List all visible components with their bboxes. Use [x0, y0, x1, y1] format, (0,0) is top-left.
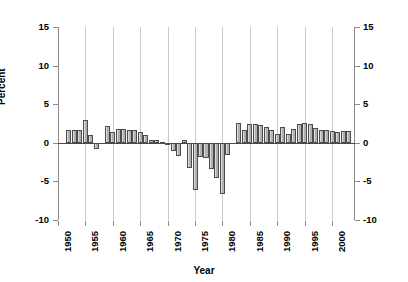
x-tick-1990 [277, 221, 278, 226]
y-tick-label-right-0: 0 [363, 138, 368, 148]
bar-1961 [116, 129, 121, 143]
x-tick-label-1970: 1970 [173, 231, 183, 252]
bar-1953 [72, 130, 77, 143]
y-tick-label-right--10: -10 [363, 215, 377, 225]
bar-1967 [149, 140, 154, 143]
x-tick-label-1955: 1955 [90, 231, 100, 252]
gridline-x-1975 [195, 27, 196, 220]
y-tick-label-right-10: 10 [363, 61, 374, 71]
bar-2002 [341, 131, 346, 143]
bar-2000 [330, 131, 335, 143]
bar-1985 [247, 124, 252, 143]
chart-figure: Percent Year 151510105500-5-5-10-1019501… [0, 0, 408, 282]
bar-1980 [220, 143, 225, 194]
x-tick-1970 [168, 221, 169, 226]
y-tick-left-10 [53, 66, 58, 67]
bar-1974 [187, 143, 192, 168]
gridline-x-1960 [113, 27, 114, 220]
bar-1981 [225, 143, 230, 155]
bar-1983 [236, 123, 241, 143]
x-tick-1980 [222, 221, 223, 226]
y-tick-left-15 [53, 27, 58, 28]
y-tick-label-left-10: 10 [0, 61, 49, 71]
bar-1991 [280, 127, 285, 143]
gridline-x-2000 [332, 27, 333, 220]
bar-1995 [302, 123, 307, 143]
bar-1955 [83, 120, 88, 142]
x-tick-1950 [58, 221, 59, 226]
bar-1973 [182, 140, 187, 142]
bar-1986 [253, 124, 258, 143]
y-tick-label-left-0: 0 [0, 138, 49, 148]
right-axis-line [354, 27, 355, 220]
x-tick-1985 [250, 221, 251, 226]
bar-1990 [275, 134, 280, 143]
x-tick-label-1980: 1980 [227, 231, 237, 252]
y-tick-label-left-5: 5 [0, 99, 49, 109]
x-tick-label-1950: 1950 [63, 231, 73, 252]
y-tick-label-left--5: -5 [0, 176, 49, 186]
bar-1988 [264, 127, 269, 142]
y-tick-label-right--5: -5 [363, 176, 371, 186]
bar-1956 [88, 135, 93, 143]
bar-1979 [214, 143, 219, 179]
bar-1952 [66, 130, 71, 142]
y-tick-label-right-15: 15 [363, 22, 374, 32]
bar-1954 [77, 130, 82, 142]
bar-1978 [209, 143, 214, 169]
y-tick-right-0 [355, 143, 360, 144]
x-tick-label-1960: 1960 [118, 231, 128, 252]
bar-1993 [291, 129, 296, 143]
bar-2001 [335, 132, 340, 143]
bar-1959 [105, 126, 110, 143]
bar-1971 [171, 143, 176, 151]
x-tick-1995 [305, 221, 306, 226]
y-tick-label-left-15: 15 [0, 22, 49, 32]
bar-1999 [324, 130, 329, 142]
y-tick-right--5 [355, 181, 360, 182]
x-tick-1965 [140, 221, 141, 226]
bar-1984 [242, 130, 247, 143]
left-axis-line [58, 27, 59, 220]
bar-1987 [258, 125, 263, 143]
y-tick-left-0 [53, 143, 58, 144]
bar-1994 [297, 124, 302, 143]
gridline-x-1990 [277, 27, 278, 220]
y-tick-right-5 [355, 104, 360, 105]
bar-1970 [165, 143, 170, 145]
gridline-x-1965 [140, 27, 141, 220]
bar-2003 [346, 131, 351, 143]
bar-1968 [154, 140, 159, 143]
x-tick-1960 [113, 221, 114, 226]
bar-1962 [121, 129, 126, 143]
x-tick-label-1965: 1965 [145, 231, 155, 252]
bar-1966 [143, 135, 148, 143]
bar-1992 [286, 134, 291, 143]
bar-1957 [94, 143, 99, 149]
bar-1996 [308, 124, 313, 143]
y-tick-label-right-5: 5 [363, 99, 368, 109]
y-tick-label-left--10: -10 [0, 215, 49, 225]
x-tick-1955 [85, 221, 86, 226]
bar-1976 [198, 143, 203, 158]
bar-1965 [138, 132, 143, 143]
bar-1964 [132, 130, 137, 142]
x-tick-label-1990: 1990 [282, 231, 292, 252]
x-tick-2000 [332, 221, 333, 226]
x-tick-label-2000: 2000 [337, 231, 347, 252]
y-tick-right-15 [355, 27, 360, 28]
bar-1969 [160, 142, 165, 144]
y-tick-right--10 [355, 220, 360, 221]
x-axis-label: Year [0, 265, 408, 276]
bar-1972 [176, 143, 181, 156]
y-tick-left--5 [53, 181, 58, 182]
x-tick-1975 [195, 221, 196, 226]
bar-1977 [203, 143, 208, 158]
bar-1989 [269, 130, 274, 142]
x-tick-label-1985: 1985 [255, 231, 265, 252]
bar-1997 [313, 128, 318, 143]
x-tick-label-1995: 1995 [310, 231, 320, 252]
gridline-x-1970 [168, 27, 169, 220]
bar-1998 [319, 130, 324, 142]
bar-1963 [127, 130, 132, 143]
